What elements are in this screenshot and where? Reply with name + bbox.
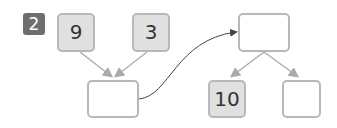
arrow-3-to-sum <box>116 52 147 76</box>
box-10-value: 10 <box>210 82 244 116</box>
bottom-right-answer-box[interactable] <box>282 80 321 118</box>
top-right-answer-box[interactable] <box>238 13 290 52</box>
arrow-9-to-sum <box>80 52 111 76</box>
box-10: 10 <box>208 80 246 118</box>
box-9-value: 9 <box>59 15 93 50</box>
box-9: 9 <box>57 13 95 52</box>
box-3-value: 3 <box>134 15 168 50</box>
problem-number-badge: 2 <box>23 13 45 35</box>
sum-answer-box[interactable] <box>87 80 139 118</box>
box-3: 3 <box>132 13 170 52</box>
arrow-top-right-to-10 <box>232 52 264 76</box>
arrow-top-right-to-blank <box>264 52 297 76</box>
